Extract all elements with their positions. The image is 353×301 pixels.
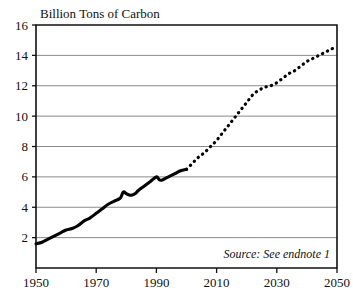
y-tick-label-14: 14 [15,48,29,63]
source-note: Source: See endnote 1 [223,247,330,261]
y-tick-label-16: 16 [15,18,29,33]
y-tick-label-6: 6 [22,169,29,184]
chart-canvas: 246810121416 195019701990201020302050 Bi… [0,0,353,301]
y-tick-label-12: 12 [15,78,28,93]
x-tick-label-1990: 1990 [143,275,169,290]
x-tick-label-2030: 2030 [264,275,290,290]
x-tick-label-1950: 1950 [23,275,49,290]
x-tick-label-2010: 2010 [204,275,230,290]
x-tick-label-2050: 2050 [324,275,350,290]
chart-title: Billion Tons of Carbon [40,6,160,21]
y-tick-label-2: 2 [22,230,29,245]
y-tick-label-8: 8 [22,139,29,154]
y-tick-label-4: 4 [22,200,29,215]
y-tick-label-10: 10 [15,109,28,124]
x-tick-label-1970: 1970 [83,275,109,290]
carbon-emissions-chart: 246810121416 195019701990201020302050 Bi… [0,0,353,301]
